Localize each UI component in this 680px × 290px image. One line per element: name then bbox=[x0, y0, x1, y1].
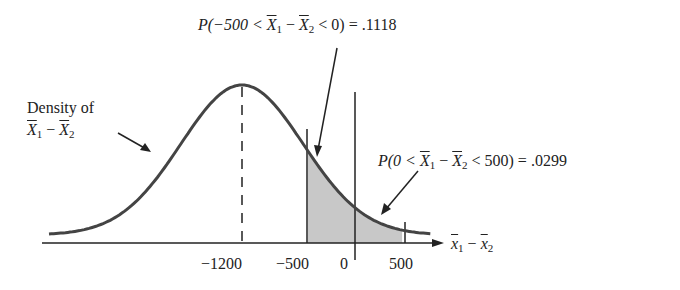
arrowhead-icon bbox=[314, 145, 322, 157]
x-axis-label: x1 − x2 bbox=[451, 236, 493, 254]
axis-arrow-icon bbox=[432, 239, 444, 247]
tick-label-minus1200: −1200 bbox=[201, 256, 242, 272]
tick-label-500: 500 bbox=[389, 256, 413, 272]
annotation-prob-1: P(−500 < X1 − X2 < 0) = .1118 bbox=[198, 17, 396, 35]
arrowhead-icon bbox=[140, 143, 151, 152]
arrow-ann1 bbox=[318, 48, 337, 150]
arrow-ann2 bbox=[386, 171, 418, 209]
tick-label-minus500: −500 bbox=[276, 256, 309, 272]
density-label-line2: X1 − X2 bbox=[27, 122, 75, 140]
tick-label-0: 0 bbox=[340, 256, 348, 272]
density-label-line1: Density of bbox=[27, 100, 94, 116]
density-curve bbox=[49, 85, 430, 234]
density-plot bbox=[0, 0, 680, 290]
annotation-prob-2: P(0 < X1 − X2 < 500) = .0299 bbox=[378, 153, 567, 171]
